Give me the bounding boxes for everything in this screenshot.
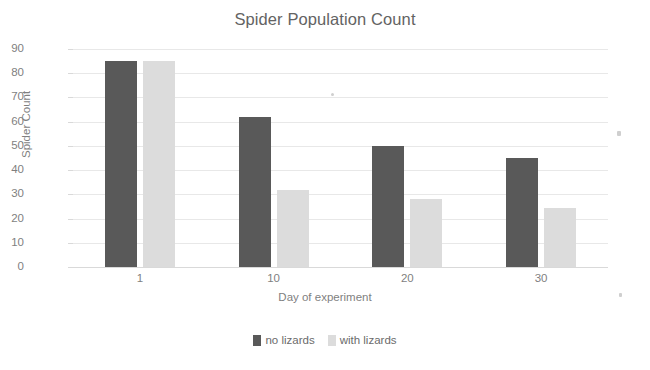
y-tick-label: 90 bbox=[0, 43, 24, 55]
y-tick-mark bbox=[68, 122, 73, 123]
bar-no-lizards-30 bbox=[506, 158, 538, 267]
y-tick-label: 70 bbox=[0, 92, 24, 104]
chart-container: Spider Population Count Spider Count 010… bbox=[0, 0, 650, 370]
y-tick-mark bbox=[68, 219, 73, 220]
legend-entry-with-lizards[interactable]: with lizards bbox=[328, 334, 397, 346]
y-tick-label: 60 bbox=[0, 116, 24, 128]
y-tick-mark bbox=[68, 267, 73, 268]
x-tick-label: 1 bbox=[100, 272, 180, 284]
y-tick-mark bbox=[68, 73, 73, 74]
plot-area: 0102030405060708090 bbox=[73, 49, 608, 267]
x-tick-label: 20 bbox=[367, 272, 447, 284]
gridline bbox=[73, 49, 608, 50]
y-tick-label: 10 bbox=[0, 237, 24, 249]
chart-title: Spider Population Count bbox=[0, 10, 650, 29]
y-tick-label: 20 bbox=[0, 213, 24, 225]
scan-speck bbox=[619, 293, 622, 297]
y-tick-label: 40 bbox=[0, 164, 24, 176]
y-tick-label: 50 bbox=[0, 140, 24, 152]
bar-with-lizards-10 bbox=[277, 190, 309, 268]
y-tick-mark bbox=[68, 243, 73, 244]
gridline bbox=[73, 267, 608, 268]
legend-swatch-icon bbox=[253, 335, 261, 346]
legend-swatch-icon bbox=[328, 335, 336, 346]
y-tick-mark bbox=[68, 146, 73, 147]
scan-speck bbox=[617, 131, 621, 136]
x-tick-label: 30 bbox=[501, 272, 581, 284]
bar-with-lizards-30 bbox=[544, 208, 576, 267]
x-axis-title: Day of experiment bbox=[0, 291, 650, 303]
scan-speck bbox=[331, 93, 334, 96]
chart-legend: no lizardswith lizards bbox=[0, 334, 650, 346]
y-tick-label: 80 bbox=[0, 67, 24, 79]
legend-label: no lizards bbox=[265, 334, 314, 346]
bar-no-lizards-10 bbox=[239, 117, 271, 267]
legend-label: with lizards bbox=[340, 334, 397, 346]
y-tick-mark bbox=[68, 170, 73, 171]
bar-with-lizards-1 bbox=[143, 61, 175, 267]
y-tick-label: 30 bbox=[0, 189, 24, 201]
bar-no-lizards-20 bbox=[372, 146, 404, 267]
x-tick-label: 10 bbox=[234, 272, 314, 284]
y-tick-mark bbox=[68, 49, 73, 50]
bar-with-lizards-20 bbox=[410, 199, 442, 267]
legend-entry-no-lizards[interactable]: no lizards bbox=[253, 334, 314, 346]
y-tick-mark bbox=[68, 97, 73, 98]
y-tick-label: 0 bbox=[0, 261, 24, 273]
bar-no-lizards-1 bbox=[105, 61, 137, 267]
y-tick-mark bbox=[68, 194, 73, 195]
